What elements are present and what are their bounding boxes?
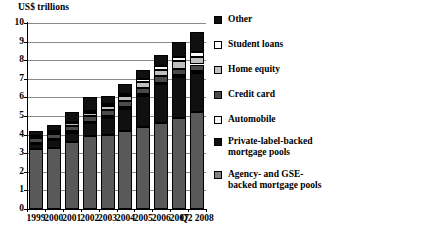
bar-segment <box>47 125 61 130</box>
bar-segment <box>47 132 61 134</box>
y-tick-label: 1 <box>2 185 24 195</box>
y-tick-label: 9 <box>2 37 24 47</box>
bar-segment <box>154 84 168 123</box>
bar-column <box>118 23 132 209</box>
bar-column <box>65 23 79 209</box>
bar-segment <box>83 97 97 110</box>
legend-label: Other <box>228 14 252 25</box>
bar-segment <box>118 131 132 209</box>
bar-column <box>172 23 186 209</box>
bar-segment <box>154 82 168 84</box>
bar-segment <box>154 76 168 82</box>
bar-segment <box>101 135 115 209</box>
bar-segment <box>136 94 150 96</box>
bar-segment <box>29 138 43 142</box>
stacked-bar-chart: US$ trillions 109876543210 1999200020012… <box>0 0 436 239</box>
bar-segment <box>83 123 97 136</box>
bar-segment <box>83 113 97 116</box>
bar-segment <box>118 94 132 97</box>
x-tick-mark <box>117 209 118 212</box>
x-tick-mark <box>134 209 135 212</box>
bar-segment <box>118 96 132 100</box>
y-tick-label: 10 <box>2 18 24 28</box>
legend-item: Home equity <box>214 64 280 75</box>
bar-segment <box>101 104 115 106</box>
legend-item: Credit card <box>214 89 275 100</box>
bar-segment <box>190 32 204 52</box>
bar-segment <box>29 149 43 209</box>
bar-segment <box>172 61 186 68</box>
x-tick-mark <box>206 209 207 212</box>
y-axis-line <box>27 22 28 210</box>
bar-segment <box>47 134 61 139</box>
bar-column <box>154 23 168 209</box>
y-tick-label: 8 <box>2 55 24 65</box>
bar-segment <box>65 123 79 125</box>
bar-segment <box>190 71 204 73</box>
x-tick-mark <box>27 209 28 212</box>
bar-segment <box>154 123 168 209</box>
legend-label: Private-label-backed mortgage pools <box>228 136 312 158</box>
legend-swatch-icon <box>214 16 222 24</box>
y-tick-label: 6 <box>2 92 24 102</box>
bar-segment <box>101 96 115 104</box>
bar-segment <box>172 57 186 61</box>
bar-segment <box>101 106 115 110</box>
legend-item: Agency- and GSE- backed mortgage pools <box>214 169 321 191</box>
legend-swatch-icon <box>214 41 222 49</box>
bar-segment <box>172 77 186 118</box>
x-tick-mark <box>45 209 46 212</box>
bar-column <box>83 23 97 209</box>
legend-swatch-icon <box>214 116 222 124</box>
legend-item: Automobile <box>214 114 276 125</box>
bar-segment <box>172 42 186 57</box>
legend-label: Automobile <box>228 114 276 125</box>
legend-item: Private-label-backed mortgage pools <box>214 136 312 158</box>
x-tick-mark <box>99 209 100 212</box>
legend-swatch-icon <box>214 171 222 179</box>
bar-column <box>136 23 150 209</box>
bar-segment <box>190 52 204 57</box>
legend-label: Agency- and GSE- backed mortgage pools <box>228 169 321 191</box>
bar-segment <box>101 118 115 135</box>
y-tick-label: 3 <box>2 148 24 158</box>
bar-segment <box>47 148 61 209</box>
y-tick-label: 4 <box>2 130 24 140</box>
bar-segment <box>190 73 204 112</box>
legend-label: Home equity <box>228 64 280 75</box>
bar-segment <box>136 79 150 82</box>
bar-segment <box>190 112 204 209</box>
legend-label: Student loans <box>228 39 283 50</box>
bar-segment <box>190 57 204 64</box>
bar-segment <box>83 111 97 113</box>
bar-segment <box>101 110 115 116</box>
bar-segment <box>172 118 186 209</box>
bar-segment <box>136 127 150 209</box>
y-tick-label: 2 <box>2 167 24 177</box>
legend-label: Credit card <box>228 89 275 100</box>
bar-segment <box>154 66 168 70</box>
x-tick-mark <box>152 209 153 212</box>
bar-segment <box>190 65 204 72</box>
legend-item: Other <box>214 14 252 25</box>
legend-item: Student loans <box>214 39 283 50</box>
bar-segment <box>154 70 168 77</box>
bar-column <box>47 23 61 209</box>
y-tick-label: 5 <box>2 111 24 121</box>
bar-segment <box>65 112 79 121</box>
bar-segment <box>65 142 79 209</box>
x-tick-mark <box>81 209 82 212</box>
bar-segment <box>65 133 79 142</box>
bar-segment <box>136 96 150 128</box>
bar-segment <box>154 55 168 66</box>
y-tick-label: 7 <box>2 74 24 84</box>
bar-segment <box>118 109 132 131</box>
x-tick-mark <box>170 209 171 212</box>
bar-segment <box>172 75 186 77</box>
bar-segment <box>47 140 61 147</box>
x-tick-label: Q2 2008 <box>180 213 214 224</box>
bar-segment <box>136 70 150 80</box>
bar-segment <box>29 144 43 150</box>
y-axis-tick-labels: 109876543210 <box>0 0 24 239</box>
bar-segment <box>83 136 97 209</box>
